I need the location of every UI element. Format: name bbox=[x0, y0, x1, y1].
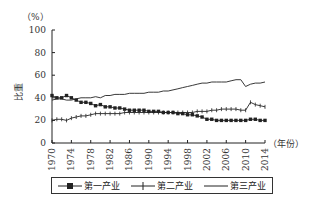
axes: 0204060801001970197419781982198619901994… bbox=[29, 25, 270, 171]
x-axis-label: （年份） bbox=[268, 138, 304, 149]
legend-label: 第二产业 bbox=[157, 179, 193, 192]
svg-text:1970: 1970 bbox=[47, 148, 57, 171]
svg-text:比重: 比重 bbox=[13, 83, 24, 101]
svg-text:1990: 1990 bbox=[144, 148, 154, 171]
series-lines bbox=[50, 80, 266, 123]
legend-item-tertiary: 第三产业 bbox=[204, 179, 266, 192]
svg-text:100: 100 bbox=[29, 25, 46, 35]
svg-text:2014: 2014 bbox=[260, 148, 270, 171]
svg-text:20: 20 bbox=[35, 115, 47, 125]
svg-text:1998: 1998 bbox=[183, 148, 193, 171]
legend-item-secondary: 第二产业 bbox=[131, 179, 193, 192]
legend-label: 第一产业 bbox=[84, 179, 120, 192]
svg-text:1978: 1978 bbox=[86, 148, 96, 171]
svg-text:1982: 1982 bbox=[105, 148, 115, 171]
plus-marker-icon bbox=[131, 182, 155, 190]
svg-text:1994: 1994 bbox=[163, 148, 173, 171]
legend-item-primary: 第一产业 bbox=[58, 179, 120, 192]
square-marker-icon bbox=[58, 182, 82, 190]
legend-label: 第三产业 bbox=[230, 179, 266, 192]
legend: 第一产业 第二产业 第三产业 bbox=[51, 177, 273, 194]
y-axis-label: 比重 bbox=[13, 83, 24, 101]
svg-text:2006: 2006 bbox=[221, 148, 231, 171]
svg-text:1986: 1986 bbox=[124, 148, 134, 171]
svg-text:80: 80 bbox=[35, 48, 47, 58]
svg-text:40: 40 bbox=[35, 93, 47, 103]
svg-text:2002: 2002 bbox=[202, 148, 212, 171]
svg-text:1974: 1974 bbox=[66, 148, 76, 171]
svg-text:0: 0 bbox=[40, 138, 46, 148]
svg-text:60: 60 bbox=[35, 70, 47, 80]
line-marker-icon bbox=[204, 182, 228, 190]
svg-text:2010: 2010 bbox=[241, 148, 251, 171]
y-unit-label: （%） bbox=[22, 12, 49, 22]
